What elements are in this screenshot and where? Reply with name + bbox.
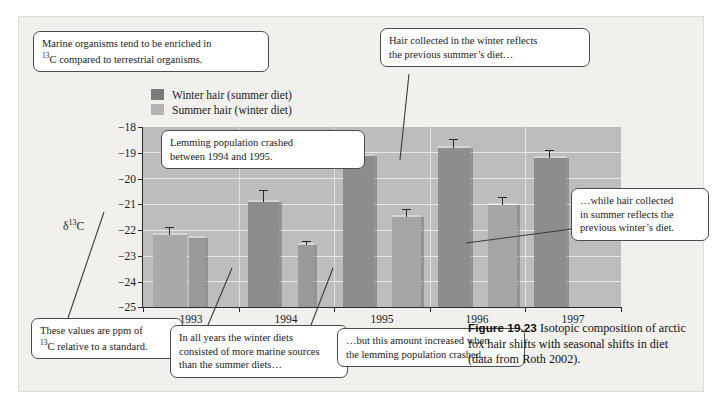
leader-line-ppm <box>68 212 104 318</box>
callout-lemming-crash: Lemming population crashed between 1994 … <box>161 130 365 169</box>
callout-line: These values are ppm of <box>40 324 174 338</box>
callout-marine-organisms: Marine organisms tend to be enriched in … <box>33 31 269 72</box>
leader-line-winter-diets <box>208 268 232 325</box>
callout-line: in summer reflects the <box>580 208 700 222</box>
callout-line-text: C compared to terrestrial organisms. <box>50 53 203 64</box>
callout-superscript: 13 <box>42 51 50 60</box>
callout-summer-hair: …while hair collected in summer reflects… <box>571 188 709 241</box>
callout-line: the previous summer’s diet… <box>389 48 581 62</box>
callout-line: Marine organisms tend to be enriched in <box>42 37 260 51</box>
callout-line: 13C relative to a standard. <box>40 338 174 353</box>
callout-line: …while hair collected <box>580 194 700 208</box>
callout-line: previous winter’s diet. <box>580 221 700 235</box>
callout-line-text: C relative to a standard. <box>48 340 148 351</box>
callout-line: than the summer diets… <box>179 358 339 372</box>
callout-line: Lemming population crashed <box>170 136 356 150</box>
leader-line-winter-hair <box>400 74 409 160</box>
callout-line: Hair collected in the winter reflects <box>389 34 581 48</box>
callout-superscript: 13 <box>40 338 48 347</box>
callout-ppm-values: These values are ppm of 13C relative to … <box>31 318 183 359</box>
leader-line-summer-hair <box>466 229 572 243</box>
callout-line: In all years the winter diets <box>179 331 339 345</box>
leader-line-amount-increased <box>311 268 333 325</box>
callout-line: 13C compared to terrestrial organisms. <box>42 51 260 66</box>
figure-caption-label: Figure 19.23 <box>468 321 537 334</box>
callout-line: consisted of more marine sources <box>179 345 339 359</box>
callout-line: between 1994 and 1995. <box>170 150 356 164</box>
callout-winter-hair: Hair collected in the winter reflects th… <box>380 28 590 67</box>
figure-caption: Figure 19.23 Isotopic composition of arc… <box>468 321 690 368</box>
callout-winter-diets: In all years the winter diets consisted … <box>170 325 348 378</box>
figure-page: Winter hair (summer diet) Summer hair (w… <box>0 0 719 406</box>
